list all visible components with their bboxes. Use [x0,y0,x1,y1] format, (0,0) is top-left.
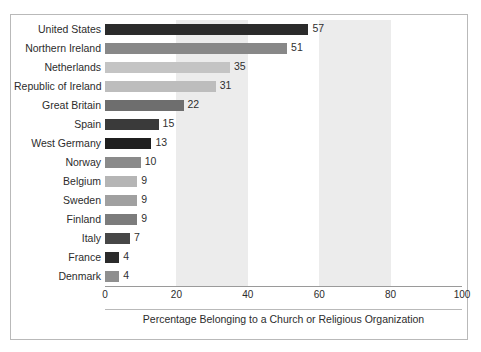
x-axis-title: Percentage Belonging to a Church or Reli… [105,313,462,325]
bar-row: 35 [105,58,462,77]
bar-row: 15 [105,115,462,134]
bar-row: 9 [105,172,462,191]
category-label: Great Britain [14,96,101,115]
bar-row: 9 [105,210,462,229]
bar-value-label: 35 [234,60,246,72]
bar [105,100,184,111]
x-axis-line [105,286,462,287]
axis-title-separator [105,309,462,310]
bar-value-label: 31 [220,79,232,91]
category-label: Italy [14,229,101,248]
plot-area: 5751353122151310999744 [105,20,462,286]
bar [105,157,141,168]
bar [105,271,119,282]
bar-row: 13 [105,134,462,153]
bar-value-label: 4 [123,250,129,262]
category-label: Netherlands [14,58,101,77]
bar-value-label: 15 [163,117,175,129]
bar-value-label: 57 [312,22,324,34]
bar-value-label: 22 [188,98,200,110]
category-label: Norway [14,153,101,172]
bar-row: 22 [105,96,462,115]
x-tick-label: 40 [242,289,253,300]
category-label: Finland [14,210,101,229]
bar-row: 31 [105,77,462,96]
category-label: Spain [14,115,101,134]
bar-row: 10 [105,153,462,172]
bar [105,176,137,187]
bar [105,233,130,244]
bar [105,81,216,92]
bar [105,119,159,130]
bar [105,43,287,54]
category-label: United States [14,20,101,39]
x-tick-label: 100 [454,289,471,300]
x-tick-label: 60 [314,289,325,300]
category-label: Republic of Ireland [14,77,101,96]
category-axis-labels: United StatesNorthern IrelandNetherlands… [14,20,101,286]
x-tick-label: 20 [171,289,182,300]
bar [105,24,308,35]
category-label: Denmark [14,267,101,286]
category-label: Sweden [14,191,101,210]
bar [105,62,230,73]
bar-value-label: 13 [155,136,167,148]
bar-row: 4 [105,267,462,286]
bar [105,195,137,206]
category-label: Northern Ireland [14,39,101,58]
bar-value-label: 4 [123,269,129,281]
bar-value-label: 9 [141,193,147,205]
chart-title [0,0,481,3]
x-axis-tick-labels: 020406080100 [105,289,462,305]
bar-row: 51 [105,39,462,58]
bar [105,252,119,263]
category-label: West Germany [14,134,101,153]
bar [105,214,137,225]
bar-row: 9 [105,191,462,210]
bar-value-label: 10 [145,155,157,167]
bar [105,138,151,149]
x-tick-label: 80 [385,289,396,300]
bar-chart-figure: United StatesNorthern IrelandNetherlands… [0,0,481,352]
category-label: France [14,248,101,267]
bar-row: 7 [105,229,462,248]
category-label: Belgium [14,172,101,191]
bars-layer: 5751353122151310999744 [105,20,462,286]
bar-value-label: 7 [134,231,140,243]
bar-row: 4 [105,248,462,267]
bar-row: 57 [105,20,462,39]
bar-value-label: 51 [291,41,303,53]
bar-value-label: 9 [141,212,147,224]
bar-value-label: 9 [141,174,147,186]
x-tick-label: 0 [102,289,108,300]
